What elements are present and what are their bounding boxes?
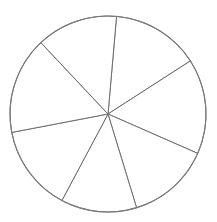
pie-chart <box>0 0 217 222</box>
pie-slices <box>10 16 206 212</box>
